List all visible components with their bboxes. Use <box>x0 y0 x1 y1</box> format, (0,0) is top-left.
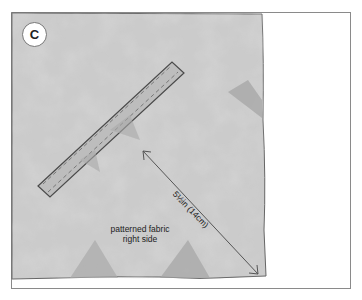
fabric-label-line1: patterned fabric <box>100 224 180 234</box>
step-badge: C <box>22 22 47 47</box>
fabric-label-line2: right side <box>100 234 180 244</box>
fabric-label: patterned fabric right side <box>100 224 180 244</box>
fabric-illustration <box>0 0 362 300</box>
